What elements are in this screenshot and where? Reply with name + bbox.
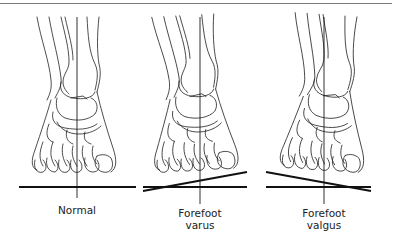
label-varus-line2: varus (155, 219, 245, 231)
foot-illustration-valgus (280, 12, 374, 173)
foot-illustration-varus (147, 13, 239, 173)
label-forefoot-varus: Forefoot varus (155, 207, 245, 231)
label-varus-line1: Forefoot (155, 207, 245, 219)
forefoot-plane-line-varus (143, 172, 247, 191)
panel-forefoot-varus (143, 13, 247, 204)
label-normal: Normal (32, 204, 122, 216)
label-forefoot-valgus: Forefoot valgus (279, 207, 369, 231)
label-valgus-line2: valgus (279, 219, 369, 231)
panel-forefoot-valgus (266, 12, 374, 204)
label-valgus-line1: Forefoot (279, 207, 369, 219)
label-normal-text: Normal (58, 204, 96, 216)
forefoot-plane-line-valgus (266, 172, 371, 191)
panel-normal (19, 17, 136, 198)
foot-illustration-normal (32, 17, 116, 172)
